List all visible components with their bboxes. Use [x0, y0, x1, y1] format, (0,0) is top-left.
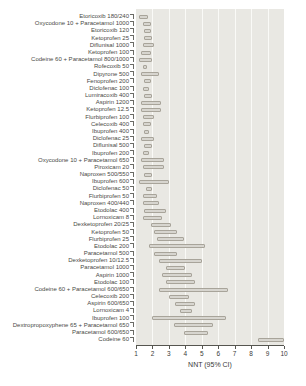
row-label: Ketoprofen 50 — [0, 229, 129, 236]
ci-bar — [141, 72, 159, 76]
row-tick — [130, 179, 134, 184]
x-tick — [185, 346, 186, 349]
ci-bar — [143, 151, 150, 155]
row-label: Flurbiprofen 100 — [0, 114, 129, 121]
row-label: Paracetamol 600/650 — [0, 329, 129, 336]
gridline — [218, 9, 219, 345]
row-tick — [130, 86, 134, 91]
ci-bar — [141, 158, 164, 162]
row-tick — [130, 294, 134, 299]
row-tick — [130, 71, 134, 76]
row-label: Ibuprofen 600 — [0, 178, 129, 185]
nnt-league-table-chart: Etoricoxib 180/240Oxycodone 10 + Paracet… — [0, 0, 306, 386]
x-tick — [235, 346, 236, 349]
row-tick — [130, 64, 134, 69]
x-axis-line — [136, 345, 284, 346]
row-label: Paracetamol 500 — [0, 250, 129, 257]
x-tick-label: 3 — [162, 350, 176, 357]
row-tick — [130, 186, 134, 191]
row-label: Ibuprofen 400 — [0, 128, 129, 135]
row-tick — [130, 35, 134, 40]
x-tick-label: 8 — [244, 350, 258, 357]
row-label: Codeine 60 — [0, 336, 129, 343]
x-tick-label: 4 — [178, 350, 192, 357]
ci-bar — [144, 29, 151, 33]
row-tick — [130, 28, 134, 33]
ci-bar — [144, 173, 152, 177]
ci-bar — [162, 273, 192, 277]
ci-bar — [154, 230, 177, 234]
row-tick — [130, 114, 134, 119]
row-label: Fenoprofen 200 — [0, 78, 129, 85]
x-tick-label: 5 — [195, 350, 209, 357]
row-label: Piroxicam 20 — [0, 164, 129, 171]
row-label: Etodolac 200 — [0, 243, 129, 250]
row-tick — [130, 157, 134, 162]
ci-bar — [143, 22, 151, 26]
ci-bar — [151, 223, 171, 227]
row-label: Oxycodone 10 + Paracetamol 1000 — [0, 20, 129, 27]
gridline — [235, 9, 236, 345]
row-tick — [130, 107, 134, 112]
ci-bar — [154, 252, 177, 256]
row-tick — [130, 164, 134, 169]
ci-bar — [169, 295, 189, 299]
ci-bar — [143, 216, 163, 220]
row-label: Flurbiprofen 50 — [0, 193, 129, 200]
x-tick — [136, 346, 137, 349]
ci-bar — [143, 194, 158, 198]
row-label: Ketoprofen 100 — [0, 49, 129, 56]
gridline — [251, 9, 252, 345]
ci-bar — [166, 266, 186, 270]
row-tick — [130, 337, 134, 342]
x-tick — [251, 346, 252, 349]
row-label: Naproxen 400/440 — [0, 200, 129, 207]
x-tick-label: 10 — [277, 350, 291, 357]
x-tick — [169, 346, 170, 349]
row-label: Etoricoxib 120 — [0, 27, 129, 34]
row-tick — [130, 78, 134, 83]
x-tick — [218, 346, 219, 349]
ci-bar — [144, 130, 149, 134]
row-tick — [130, 330, 134, 335]
row-tick — [130, 322, 134, 327]
x-tick — [152, 346, 153, 349]
row-label: Dexketoprofen 20/25 — [0, 221, 129, 228]
ci-bar — [258, 338, 284, 342]
row-tick — [130, 287, 134, 292]
row-label: Etodolac 400 — [0, 207, 129, 214]
row-label: Rofecoxib 50 — [0, 63, 129, 70]
row-label: Ibuprofen 200 — [0, 150, 129, 157]
row-label: Diflunisal 1000 — [0, 42, 129, 49]
ci-bar — [144, 209, 165, 213]
row-label: Aspirin 1000 — [0, 272, 129, 279]
row-label: Diclofenac 25 — [0, 135, 129, 142]
gridline — [152, 9, 153, 345]
row-label: Dexketoprofen 10/12.5 — [0, 257, 129, 264]
ci-bar — [143, 122, 151, 126]
row-label: Codeine 60 + Paracetamol 600/650 — [0, 286, 129, 293]
row-tick — [130, 272, 134, 277]
row-tick — [130, 100, 134, 105]
row-label: Lumiracoxib 400 — [0, 92, 129, 99]
row-tick — [130, 42, 134, 47]
row-tick — [130, 200, 134, 205]
row-label: Ibuprofen 100 — [0, 315, 129, 322]
row-label: Flurbiprofen 25 — [0, 236, 129, 243]
row-label: Etodolac 100 — [0, 279, 129, 286]
row-label: Lornoxicam 4 — [0, 307, 129, 314]
row-tick — [130, 229, 134, 234]
ci-bar — [159, 288, 228, 292]
x-tick — [268, 346, 269, 349]
ci-bar — [143, 201, 159, 205]
ci-bar — [159, 259, 202, 263]
ci-bar — [152, 316, 226, 320]
row-tick — [130, 193, 134, 198]
x-tick-label: 9 — [261, 350, 275, 357]
row-label: Celecoxib 400 — [0, 121, 129, 128]
ci-bar — [184, 331, 209, 335]
row-tick — [130, 215, 134, 220]
ci-bar — [139, 180, 169, 184]
row-tick — [130, 57, 134, 62]
ci-bar — [139, 15, 147, 19]
